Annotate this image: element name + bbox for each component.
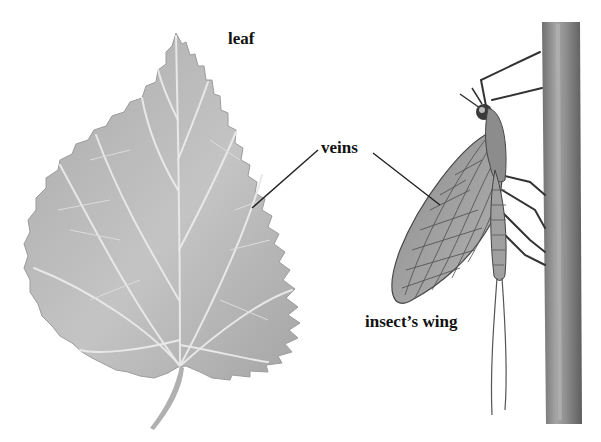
diagram-canvas: leaf veins insect’s wing <box>0 0 601 442</box>
insect-wing <box>392 135 502 303</box>
leaf-illustration <box>24 33 300 430</box>
pointer-lines <box>252 150 440 208</box>
plant-stem <box>542 22 582 424</box>
insect-tail <box>491 278 506 415</box>
insect-wing-label: insect’s wing <box>365 313 457 330</box>
veins-label: veins <box>321 139 358 156</box>
insect-abdomen <box>491 170 506 280</box>
veins-pointer-wing <box>373 153 440 205</box>
insect-illustration <box>392 52 545 415</box>
leaf-label: leaf <box>228 30 254 47</box>
illustration <box>0 0 601 442</box>
